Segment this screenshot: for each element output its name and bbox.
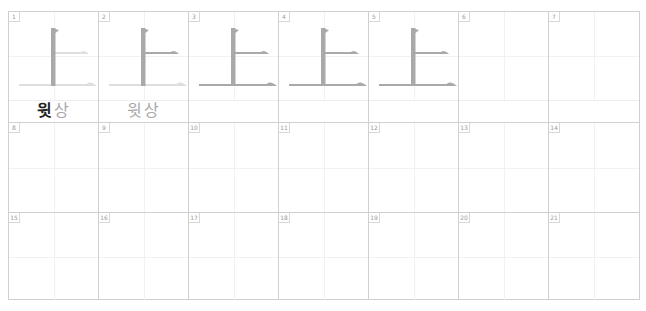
cell-number: 11 <box>279 123 290 133</box>
cell-number: 21 <box>549 213 560 223</box>
guide-line-horizontal <box>549 56 639 57</box>
practice-cell-1[interactable]: 윗상 1 <box>9 12 99 122</box>
cell-number: 2 <box>99 12 110 22</box>
cell-number: 18 <box>279 213 290 223</box>
cell-number: 3 <box>189 12 200 22</box>
guide-line-horizontal <box>459 168 548 169</box>
cell-number: 1 <box>9 12 20 22</box>
cell-number: 13 <box>459 123 470 133</box>
practice-row-2: 8 9 10 11 12 13 14 <box>9 123 639 213</box>
cell-number: 10 <box>189 123 200 133</box>
reading-sound: 상 <box>54 101 71 120</box>
cell-number: 6 <box>459 12 470 22</box>
reading-meaning: 윗 <box>37 101 54 120</box>
practice-cell-18[interactable]: 18 <box>279 213 369 300</box>
guide-line-horizontal <box>459 257 548 258</box>
character-reading-label: 윗상 <box>9 100 98 122</box>
stroke-order-glyph-step-1 <box>9 12 99 100</box>
practice-cell-2[interactable]: 윗상 2 <box>99 12 189 122</box>
cell-number: 9 <box>99 123 110 133</box>
practice-cell-5[interactable]: 5 <box>369 12 459 122</box>
guide-line-horizontal <box>189 168 278 169</box>
practice-cell-9[interactable]: 9 <box>99 123 189 212</box>
label-separator <box>189 100 278 101</box>
practice-cell-10[interactable]: 10 <box>189 123 279 212</box>
guide-line-horizontal <box>369 257 458 258</box>
character-reading-label: 윗상 <box>99 100 188 122</box>
practice-cell-3[interactable]: 3 <box>189 12 279 122</box>
guide-line-horizontal <box>9 257 98 258</box>
practice-cell-16[interactable]: 16 <box>99 213 189 300</box>
cell-number: 5 <box>369 12 380 22</box>
practice-cell-6[interactable]: 6 <box>459 12 549 122</box>
label-separator <box>549 100 639 101</box>
practice-cell-21[interactable]: 21 <box>549 213 639 300</box>
guide-line-horizontal <box>189 257 278 258</box>
practice-cell-17[interactable]: 17 <box>189 213 279 300</box>
practice-cell-11[interactable]: 11 <box>279 123 369 212</box>
cell-number: 15 <box>9 213 20 223</box>
guide-line-horizontal <box>549 168 639 169</box>
label-separator <box>279 100 368 101</box>
cell-number: 17 <box>189 213 200 223</box>
guide-line-horizontal <box>549 257 639 258</box>
practice-cell-20[interactable]: 20 <box>459 213 549 300</box>
practice-cell-7[interactable]: 7 <box>549 12 639 122</box>
reading-sound: 상 <box>144 101 161 120</box>
guide-line-horizontal <box>279 257 368 258</box>
label-separator <box>459 100 548 101</box>
cell-number: 8 <box>9 123 20 133</box>
practice-cell-14[interactable]: 14 <box>549 123 639 212</box>
guide-line-horizontal <box>279 168 368 169</box>
stroke-order-glyph-step-2 <box>99 12 189 100</box>
practice-cell-19[interactable]: 19 <box>369 213 459 300</box>
stroke-order-glyph-complete <box>279 12 369 100</box>
practice-cell-8[interactable]: 8 <box>9 123 99 212</box>
guide-line-horizontal <box>9 168 98 169</box>
cell-number: 14 <box>549 123 560 133</box>
practice-row-1: 윗상 1 윗상 2 <box>9 12 639 123</box>
cell-number: 7 <box>549 12 560 22</box>
guide-line-horizontal <box>459 56 548 57</box>
practice-sheet: 윗상 1 윗상 2 <box>8 11 640 300</box>
stroke-order-glyph-complete <box>369 12 459 100</box>
cell-number: 20 <box>459 213 470 223</box>
guide-line-horizontal <box>99 257 188 258</box>
cell-number: 4 <box>279 12 290 22</box>
cell-number: 16 <box>99 213 110 223</box>
label-separator <box>369 100 458 101</box>
practice-cell-4[interactable]: 4 <box>279 12 369 122</box>
stroke-order-glyph-complete <box>189 12 279 100</box>
practice-cell-13[interactable]: 13 <box>459 123 549 212</box>
practice-cell-12[interactable]: 12 <box>369 123 459 212</box>
cell-number: 19 <box>369 213 380 223</box>
practice-row-3: 15 16 17 18 19 20 21 <box>9 213 639 300</box>
practice-cell-15[interactable]: 15 <box>9 213 99 300</box>
guide-line-horizontal <box>99 168 188 169</box>
reading-meaning: 윗 <box>127 101 144 120</box>
cell-number: 12 <box>369 123 380 133</box>
guide-line-horizontal <box>369 168 458 169</box>
